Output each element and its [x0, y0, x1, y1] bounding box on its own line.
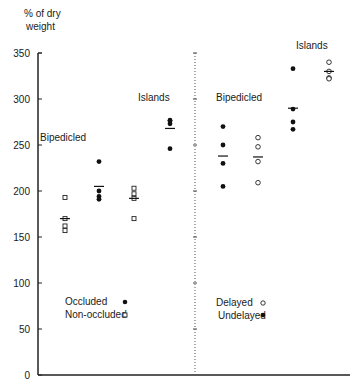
data-point-filled-circle — [221, 143, 226, 148]
y-axis-title-line2: weight — [25, 21, 55, 32]
data-point-filled-circle — [97, 159, 102, 164]
data-point-open-square — [132, 192, 136, 196]
group-label-right-islands: Islands — [296, 40, 328, 51]
data-point-filled-circle — [97, 189, 102, 194]
filled-circle-marker-icon — [261, 313, 266, 318]
data-point-open-circle — [327, 60, 332, 65]
data-point-open-circle — [256, 145, 261, 150]
data-point-filled-circle — [97, 197, 102, 202]
legend-label-non-occluded: Non-occluded — [65, 309, 127, 320]
legend-label-delayed: Delayed — [216, 297, 253, 308]
legend-right: Delayed Undelayed — [216, 297, 266, 321]
y-tick-label: 50 — [19, 324, 31, 335]
data-point-open-square — [63, 195, 67, 199]
open-square-marker-icon — [123, 313, 127, 317]
data-point-filled-circle — [291, 120, 296, 125]
open-circle-marker-icon — [261, 301, 265, 305]
y-tick-label: 0 — [24, 370, 30, 381]
y-tick-label: 200 — [13, 186, 30, 197]
data-point-open-square — [63, 224, 67, 228]
y-axis-title-line1: % of dry — [24, 8, 61, 19]
data-point-open-square — [132, 217, 136, 221]
data-point-filled-circle — [221, 184, 226, 189]
y-tick-label: 300 — [13, 94, 30, 105]
data-point-filled-circle — [291, 107, 296, 112]
data-points — [60, 60, 334, 233]
legend-label-occluded: Occluded — [65, 296, 107, 307]
data-point-filled-circle — [291, 127, 296, 132]
data-point-filled-circle — [221, 161, 226, 166]
y-tick-label: 150 — [13, 232, 30, 243]
y-tick-label: 100 — [13, 278, 30, 289]
y-tick-label: 250 — [13, 140, 30, 151]
data-point-filled-circle — [221, 124, 226, 129]
data-point-open-circle — [256, 135, 261, 140]
group-label-left-bipedicled: Bipedicled — [40, 132, 86, 143]
scatter-chart: % of dry weight 050100150200250300350 Bi… — [0, 0, 359, 387]
data-point-open-square — [63, 229, 67, 233]
group-label-right-bipedicled: Bipedicled — [216, 92, 262, 103]
legend-label-undelayed: Undelayed — [218, 310, 266, 321]
data-point-open-circle — [256, 159, 261, 164]
data-point-filled-circle — [168, 146, 173, 151]
data-point-open-square — [132, 186, 136, 190]
legend-left: Occluded Non-occluded — [65, 296, 127, 320]
group-label-left-islands: Islands — [138, 92, 170, 103]
y-tick-label: 350 — [13, 48, 30, 59]
data-point-open-circle — [256, 180, 261, 185]
data-point-open-circle — [327, 76, 332, 81]
filled-circle-marker-icon — [123, 300, 128, 305]
data-point-filled-circle — [168, 121, 173, 126]
data-point-filled-circle — [291, 66, 296, 71]
